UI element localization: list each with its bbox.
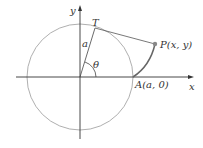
radius-label: a — [82, 38, 88, 49]
point-P — [153, 42, 157, 46]
involute-curve — [133, 44, 155, 77]
point-P-label: P(x, y) — [159, 39, 192, 50]
involute-diagram: y x T a θ P(x, y) A(a, 0) — [0, 0, 203, 148]
y-axis-arrow-icon — [78, 5, 82, 11]
x-axis-label: x — [189, 81, 195, 92]
y-axis-label: y — [69, 5, 76, 16]
tangent-line — [95, 28, 155, 44]
point-T-label: T — [92, 17, 100, 28]
point-A-label: A(a, 0) — [134, 79, 169, 90]
x-axis-arrow-icon — [188, 75, 194, 79]
theta-label: θ — [93, 59, 99, 70]
